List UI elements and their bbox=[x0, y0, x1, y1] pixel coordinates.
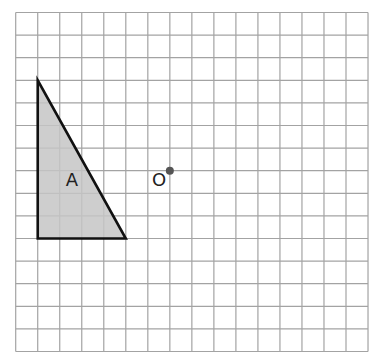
grid-canvas: A O bbox=[0, 0, 372, 363]
grid-diagram: A O bbox=[0, 0, 372, 363]
point-o-dot bbox=[166, 167, 174, 175]
point-o-label: O bbox=[152, 169, 166, 190]
triangle-a-label: A bbox=[66, 169, 79, 190]
